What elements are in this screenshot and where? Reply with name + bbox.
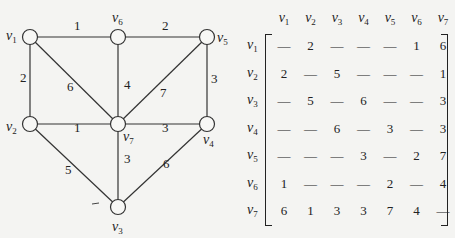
stray-mark (92, 203, 99, 204)
row-header-v2: v2 (247, 65, 258, 82)
matrix-cell: — (378, 38, 402, 54)
matrix-cell: 4 (405, 203, 429, 219)
matrix-cell: 6 (325, 121, 349, 137)
matrix-cell: — (405, 66, 429, 82)
column-header-v4: v4 (352, 10, 376, 27)
vertex-label-v7: v7 (123, 129, 134, 146)
weight-matrix: v1v2v3v4v5v6v7v1v2v3v4v5v6v7—2———162—5——… (245, 0, 455, 238)
matrix-cell: — (299, 148, 323, 164)
matrix-cell: — (325, 148, 349, 164)
matrix-cell: 2 (272, 66, 296, 82)
matrix-cell: 7 (431, 148, 455, 164)
row-header-v5: v5 (247, 147, 258, 164)
matrix-cell: 7 (378, 203, 402, 219)
edge-v2-v3 (30, 124, 118, 207)
matrix-cell: 1 (405, 38, 429, 54)
edge-weight-label: 7 (160, 85, 167, 100)
matrix-cell: — (405, 176, 429, 192)
matrix-cell: 2 (405, 148, 429, 164)
matrix-cell: — (352, 38, 376, 54)
edge-v1-v7 (30, 37, 118, 124)
edge-weight-label: 1 (74, 120, 81, 135)
matrix-cell: — (272, 93, 296, 109)
edge-weight-label: 3 (211, 71, 218, 86)
matrix-cell: — (272, 148, 296, 164)
vertex-label-v6: v6 (112, 10, 123, 27)
matrix-cell: 3 (431, 93, 455, 109)
edge-v5-v7 (118, 37, 207, 124)
edge-weight-label: 3 (124, 151, 131, 166)
matrix-cell: — (325, 176, 349, 192)
matrix-cell: — (352, 121, 376, 137)
matrix-left-bracket (265, 34, 272, 226)
matrix-cell: — (325, 93, 349, 109)
matrix-cell: 3 (325, 203, 349, 219)
vertex-label-v1: v1 (6, 28, 17, 45)
column-header-v6: v6 (405, 10, 429, 27)
edge-weight-label: 2 (20, 70, 27, 85)
matrix-cell: — (431, 203, 455, 219)
vertex-v1 (23, 30, 38, 45)
matrix-cell: 6 (431, 38, 455, 54)
matrix-cell: — (405, 93, 429, 109)
matrix-cell: 6 (272, 203, 296, 219)
matrix-cell: — (299, 176, 323, 192)
matrix-cell: 6 (352, 93, 376, 109)
row-header-v7: v7 (247, 202, 258, 219)
row-header-v3: v3 (247, 92, 258, 109)
matrix-cell: 3 (352, 148, 376, 164)
vertex-v5 (200, 30, 215, 45)
matrix-cell: 3 (352, 203, 376, 219)
vertex-label-v2: v2 (6, 119, 17, 136)
edge-weight-label: 5 (65, 162, 72, 177)
vertex-v6 (111, 30, 126, 45)
weighted-graph: 122647313536 v1v2v3v4v5v6v7 (0, 0, 240, 238)
matrix-cell: — (272, 121, 296, 137)
column-header-v1: v1 (272, 10, 296, 27)
edge-weight-label: 2 (162, 18, 169, 33)
matrix-cell: 5 (325, 66, 349, 82)
vertex-label-v5: v5 (217, 30, 228, 47)
matrix-cell: — (325, 38, 349, 54)
edge-weight-label: 1 (74, 18, 81, 33)
edge-weight-label: 6 (67, 79, 74, 94)
row-header-v6: v6 (247, 175, 258, 192)
column-header-v2: v2 (299, 10, 323, 27)
matrix-cell: — (378, 93, 402, 109)
matrix-cell: 1 (299, 203, 323, 219)
vertex-label-v4: v4 (203, 132, 214, 149)
vertex-label-v3: v3 (112, 219, 123, 236)
matrix-cell: — (299, 66, 323, 82)
edge-weight-label: 6 (163, 156, 170, 171)
vertex-v4 (200, 117, 215, 132)
edge-weight-label: 3 (162, 120, 169, 135)
matrix-cell: 1 (272, 176, 296, 192)
matrix-cell: — (378, 148, 402, 164)
matrix-cell: — (352, 176, 376, 192)
matrix-cell: 2 (299, 38, 323, 54)
matrix-cell: 5 (299, 93, 323, 109)
edge-weight-label: 4 (124, 77, 131, 92)
vertex-v3 (111, 200, 126, 215)
row-header-v1: v1 (247, 37, 258, 54)
column-header-v3: v3 (325, 10, 349, 27)
matrix-cell: — (378, 66, 402, 82)
vertex-v2 (23, 117, 38, 132)
column-header-v5: v5 (378, 10, 402, 27)
matrix-cell: 2 (378, 176, 402, 192)
matrix-cell: 3 (431, 121, 455, 137)
matrix-cell: — (272, 38, 296, 54)
matrix-cell: 3 (378, 121, 402, 137)
matrix-cell: 1 (431, 66, 455, 82)
matrix-cell: — (405, 121, 429, 137)
matrix-cell: 4 (431, 176, 455, 192)
matrix-cell: — (299, 121, 323, 137)
row-header-v4: v4 (247, 120, 258, 137)
matrix-cell: — (352, 66, 376, 82)
column-header-v7: v7 (431, 10, 455, 27)
